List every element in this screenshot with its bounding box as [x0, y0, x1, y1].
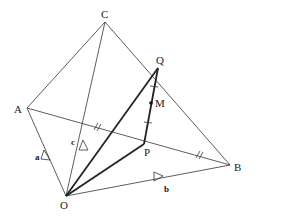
segment-oq	[66, 68, 158, 196]
label-m: M	[155, 97, 165, 109]
tick-pq-upper	[150, 86, 158, 87]
label-a: A	[14, 103, 22, 115]
segment-op	[66, 144, 144, 196]
edge-ac	[27, 22, 105, 108]
tetrahedron-diagram: C A O B Q P M a c b	[0, 0, 288, 218]
edge-oa	[27, 108, 66, 196]
edge-ab	[27, 108, 230, 165]
label-q: Q	[156, 54, 164, 66]
point-m	[149, 101, 153, 105]
label-vector-b: b	[164, 184, 169, 194]
tick-ab-3	[196, 151, 200, 158]
label-c: C	[101, 8, 108, 20]
tick-ab-4	[199, 152, 203, 159]
label-vector-c: c	[71, 137, 75, 147]
tick-pq-lower	[144, 122, 152, 123]
label-b: B	[234, 161, 241, 173]
arrow-c-icon	[79, 140, 88, 150]
label-o: O	[60, 199, 68, 211]
tick-ab-1	[94, 123, 98, 130]
arrow-b-icon	[154, 172, 163, 181]
label-p: P	[144, 146, 150, 158]
edge-cb	[105, 22, 230, 165]
label-vector-a: a	[35, 152, 40, 162]
arrow-a-icon	[41, 150, 50, 160]
